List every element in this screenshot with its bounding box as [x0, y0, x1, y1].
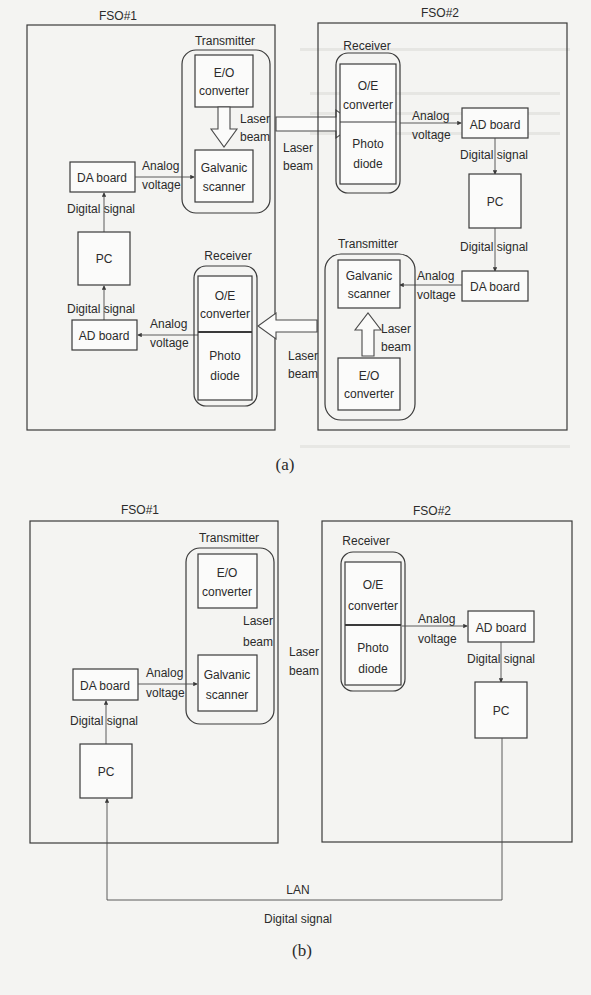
- fso2-receiver-label: Receiver: [342, 534, 389, 548]
- eo-label: converter: [202, 585, 252, 599]
- oe-label: converter: [343, 98, 393, 112]
- fso2-title: FSO#2: [413, 504, 451, 518]
- figure-b: FSO#1 Transmitter E/O converter Laser be…: [30, 503, 572, 960]
- analog-label: Analog: [146, 666, 183, 680]
- ad-board-label: AD board: [79, 329, 130, 343]
- digital-signal-label: Digital signal: [467, 652, 535, 666]
- fso1-transmitter-label: Transmitter: [195, 34, 255, 48]
- digital-signal-label: Digital signal: [67, 202, 135, 216]
- fso1-eo-converter: [198, 554, 257, 608]
- laser-label: Laser: [289, 645, 319, 659]
- lan-digital-signal-label: Digital signal: [264, 912, 332, 926]
- fso2-transmitter-label: Transmitter: [338, 237, 398, 251]
- fso1-galvanic-scanner: [198, 655, 257, 711]
- pc-label: PC: [96, 252, 113, 266]
- analog-label: voltage: [412, 128, 451, 142]
- fso-system-diagram: FSO#1 Transmitter E/O converter Laser be…: [0, 0, 591, 995]
- laser-label: beam: [283, 159, 313, 173]
- laser-beam-left-arrow-icon: [258, 313, 317, 339]
- fso1-receiver-label: Receiver: [204, 249, 251, 263]
- laser-label: beam: [240, 130, 270, 144]
- pc-label: PC: [487, 195, 504, 209]
- da-board-label: DA board: [80, 679, 130, 693]
- fso2-title: FSO#2: [421, 6, 459, 20]
- eo-label: E/O: [359, 369, 380, 383]
- digital-signal-label: Digital signal: [67, 302, 135, 316]
- figure-b-caption: (b): [292, 941, 312, 960]
- fso2-receiver-label: Receiver: [343, 39, 390, 53]
- fso1-title: FSO#1: [99, 9, 137, 23]
- analog-label: voltage: [150, 336, 189, 350]
- laser-up-arrow-icon: [355, 313, 381, 356]
- laser-label: beam: [243, 635, 273, 649]
- analog-label: voltage: [142, 178, 181, 192]
- photo-label: diode: [353, 157, 383, 171]
- laser-label: Laser: [381, 322, 411, 336]
- lan-wire: [107, 738, 502, 900]
- photo-label: diode: [358, 662, 388, 676]
- pc-label: PC: [493, 704, 510, 718]
- oe-label: converter: [348, 599, 398, 613]
- analog-label: voltage: [146, 686, 185, 700]
- fso1-title: FSO#1: [121, 503, 159, 517]
- eo-label: E/O: [217, 566, 238, 580]
- laser-label: Laser: [240, 112, 270, 126]
- pc-label: PC: [98, 765, 115, 779]
- lan-label: LAN: [286, 883, 309, 897]
- eo-label: converter: [199, 84, 249, 98]
- da-board-label: DA board: [470, 280, 520, 294]
- photo-label: diode: [210, 369, 240, 383]
- photo-label: Photo: [352, 137, 384, 151]
- oe-label: converter: [200, 307, 250, 321]
- galvanic-label: scanner: [348, 287, 391, 301]
- laser-label: beam: [288, 367, 318, 381]
- galvanic-label: scanner: [206, 688, 249, 702]
- laser-down-arrow-icon: [211, 107, 237, 147]
- galvanic-label: scanner: [203, 180, 246, 194]
- digital-signal-label: Digital signal: [460, 240, 528, 254]
- digital-signal-label: Digital signal: [70, 714, 138, 728]
- ad-board-label: AD board: [476, 621, 527, 635]
- analog-label: voltage: [418, 632, 457, 646]
- laser-label: beam: [381, 340, 411, 354]
- oe-label: O/E: [363, 578, 384, 592]
- galvanic-label: Galvanic: [201, 161, 248, 175]
- figure-a-caption: (a): [276, 455, 295, 474]
- figure-a: FSO#1 Transmitter E/O converter Laser be…: [27, 6, 567, 474]
- galvanic-label: Galvanic: [204, 668, 251, 682]
- laser-label: beam: [289, 664, 319, 678]
- laser-label: Laser: [283, 141, 313, 155]
- fso1-galvanic-scanner: [195, 150, 253, 202]
- ad-board-label: AD board: [470, 118, 521, 132]
- eo-label: converter: [344, 387, 394, 401]
- analog-label: Analog: [412, 109, 449, 123]
- laser-label: Laser: [243, 614, 273, 628]
- da-board-label: DA board: [77, 171, 127, 185]
- galvanic-label: Galvanic: [346, 269, 393, 283]
- eo-label: E/O: [214, 66, 235, 80]
- oe-label: O/E: [215, 289, 236, 303]
- fso2-eo-converter: [338, 358, 400, 410]
- digital-signal-label: Digital signal: [460, 148, 528, 162]
- fso1-eo-converter: [195, 55, 253, 107]
- fso1-transmitter-label: Transmitter: [199, 531, 259, 545]
- analog-label: voltage: [417, 288, 456, 302]
- photo-label: Photo: [209, 349, 241, 363]
- laser-label: Laser: [288, 349, 318, 363]
- analog-label: Analog: [142, 159, 179, 173]
- oe-label: O/E: [358, 79, 379, 93]
- analog-label: Analog: [417, 269, 454, 283]
- analog-label: Analog: [418, 612, 455, 626]
- analog-label: Analog: [150, 317, 187, 331]
- photo-label: Photo: [357, 641, 389, 655]
